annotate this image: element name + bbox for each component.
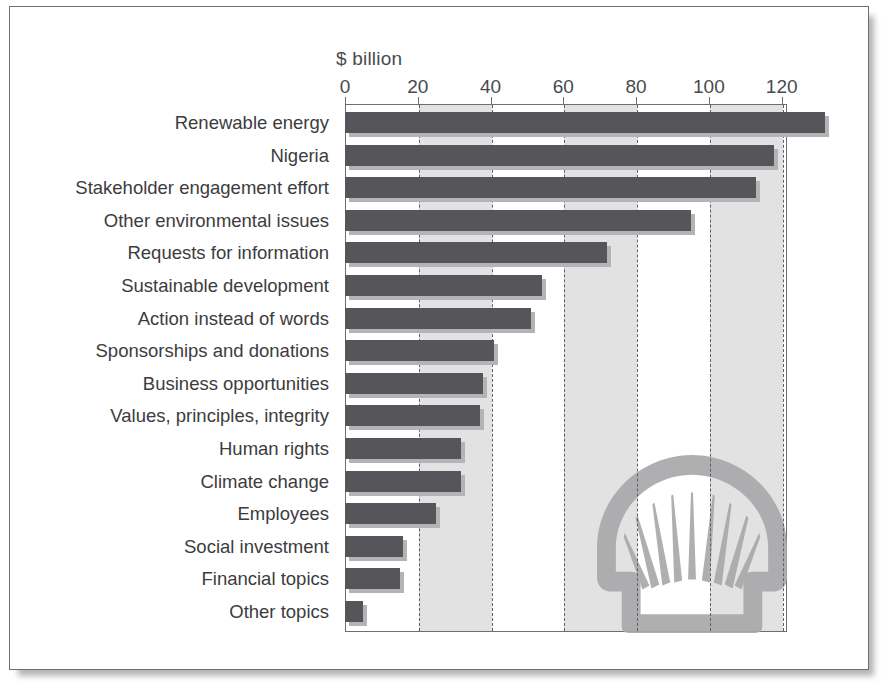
y-axis-category-label: Employees	[237, 498, 329, 531]
shell-pecten-logo-watermark	[593, 453, 791, 635]
background-band	[419, 105, 492, 631]
gridline	[710, 105, 711, 631]
x-axis-tick-mark	[636, 97, 637, 104]
y-axis-category-label: Climate change	[200, 466, 329, 499]
x-axis-tick-label: 80	[626, 76, 647, 98]
y-axis-category-label: Renewable energy	[175, 107, 329, 140]
x-axis-tick-mark	[345, 97, 346, 104]
y-axis-category-label: Action instead of words	[138, 303, 329, 336]
plot-area	[345, 104, 787, 632]
gridline	[564, 105, 565, 631]
y-axis-category-label: Social investment	[184, 531, 329, 564]
x-axis-tick-mark	[491, 97, 492, 104]
x-axis-tick-mark	[418, 97, 419, 104]
x-axis-tick-label: 20	[407, 76, 428, 98]
x-axis-tick-label: 0	[340, 76, 351, 98]
gridline	[783, 105, 784, 631]
gridline	[492, 105, 493, 631]
x-axis-tick-mark	[782, 97, 783, 104]
y-axis-category-label: Business opportunities	[143, 368, 329, 401]
gridline	[637, 105, 638, 631]
x-axis-tick-label: 40	[480, 76, 501, 98]
y-axis-category-label: Requests for information	[127, 237, 329, 270]
y-axis-category-label: Stakeholder engagement effort	[75, 172, 329, 205]
x-axis-tick-mark	[563, 97, 564, 104]
x-axis-tick-label: 100	[693, 76, 725, 98]
y-axis-category-label: Other environmental issues	[104, 205, 329, 238]
y-axis-category-label: Nigeria	[270, 140, 329, 173]
y-axis-category-label: Other topics	[229, 596, 329, 629]
y-axis-category-label: Financial topics	[201, 563, 329, 596]
axis-title: $ billion	[336, 48, 402, 70]
x-axis-tick-label: 120	[766, 76, 798, 98]
y-axis-category-label: Sustainable development	[121, 270, 329, 303]
y-axis-category-label: Human rights	[219, 433, 329, 466]
x-axis-tick-label: 60	[553, 76, 574, 98]
y-axis-category-labels: Renewable energyNigeriaStakeholder engag…	[0, 104, 337, 632]
x-axis-tick-mark	[709, 97, 710, 104]
y-axis-category-label: Sponsorships and donations	[96, 335, 329, 368]
y-axis-category-label: Values, principles, integrity	[110, 400, 329, 433]
gridline	[419, 105, 420, 631]
